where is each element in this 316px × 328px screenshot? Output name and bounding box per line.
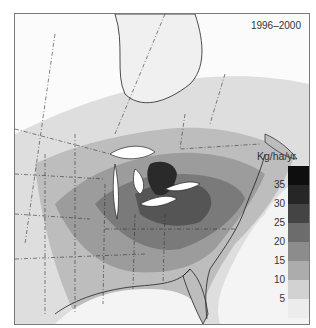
- legend-tick: 25: [265, 217, 285, 228]
- legend-tick: 30: [265, 198, 285, 209]
- legend-swatch-10-15: [288, 261, 310, 280]
- legend-swatch-25-30: [288, 204, 310, 223]
- map-frame: 1996–2000 Kg/ha/yr 35 30 25 20 15 10 5: [14, 13, 310, 325]
- legend-swatch-20-25: [288, 223, 310, 242]
- legend-swatch-lt5: [288, 299, 310, 318]
- legend-tick: 5: [265, 293, 285, 304]
- period-label: 1996–2000: [251, 20, 301, 31]
- legend-tick: 20: [265, 236, 285, 247]
- legend-tick: 35: [265, 179, 285, 190]
- legend-swatch-15-20: [288, 242, 310, 261]
- legend-tick: 10: [265, 274, 285, 285]
- legend-unit: Kg/ha/yr: [257, 150, 296, 162]
- legend-tick: 15: [265, 255, 285, 266]
- legend-swatch-30-35: [288, 185, 310, 204]
- legend-swatch-gt35: [288, 166, 310, 185]
- legend-swatch-5-10: [288, 280, 310, 299]
